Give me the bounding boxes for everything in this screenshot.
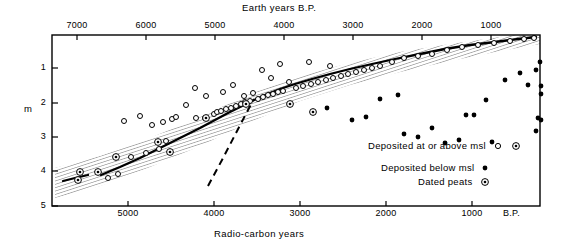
top-tick-label-1000: 1000 <box>471 20 511 30</box>
top-tick-label-6000: 6000 <box>126 20 166 30</box>
bottom-axis-label: Radio-carbon years <box>214 228 304 239</box>
bottom-tick-label-3000: 3000 <box>280 208 320 218</box>
bottom-tick-label-4000: 4000 <box>194 208 234 218</box>
y-tick-label-1: 1 <box>34 62 46 72</box>
bottom-tick-label-2000: 2000 <box>366 208 406 218</box>
top-axis-label: Earth years B.P. <box>242 2 316 13</box>
top-tick-label-3000: 3000 <box>333 20 373 30</box>
legend-label-above-msl: Deposited at or above msl <box>368 140 486 151</box>
points-deposited-at-or-above-msl <box>106 36 537 181</box>
legend-label-below-msl: Deposited below msl <box>381 162 474 173</box>
top-tick-label-2000: 2000 <box>402 20 442 30</box>
y-axis-label: m <box>24 103 32 114</box>
y-tick-label-3: 3 <box>34 131 46 141</box>
legend-label-dated-peats: Dated peats <box>418 176 473 187</box>
top-tick-label-5000: 5000 <box>195 20 235 30</box>
bottom-tick-label-5000: 5000 <box>108 208 148 218</box>
bottom-axis-unit-label: B.P. <box>503 208 520 218</box>
sea-level-chart: Earth years B.P. Radio-carbon years m B.… <box>0 0 568 246</box>
y-tick-label-5: 5 <box>34 200 46 210</box>
y-tick-label-4: 4 <box>34 165 46 175</box>
y-tick-label-2: 2 <box>34 97 46 107</box>
top-tick-label-7000: 7000 <box>57 20 97 30</box>
legend-markers <box>482 143 520 186</box>
top-tick-label-4000: 4000 <box>264 20 304 30</box>
bottom-tick-label-1000: 1000 <box>452 208 492 218</box>
